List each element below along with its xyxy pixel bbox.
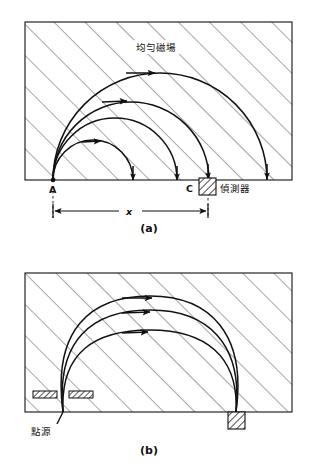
dimension-label-x: x: [125, 206, 133, 217]
detector-label-c: C: [186, 183, 193, 194]
trajectory-middle-arc-direction-arrow: [122, 312, 150, 313]
trajectory-middle-arc-direction-arrow: [102, 101, 127, 102]
dimension-x: x: [53, 186, 208, 218]
source-label-b: 點源: [31, 426, 51, 437]
detector-block-b: [228, 412, 245, 429]
physics-figure: A C 偵測器 均勻磁場 x (a): [0, 0, 315, 467]
detector-block-a: [199, 178, 216, 195]
trajectory-inner-arc-direction-arrow: [122, 332, 148, 333]
panel-a: A C 偵測器 均勻磁場 x (a): [25, 22, 292, 235]
panel-caption-b: (b): [140, 444, 158, 457]
slit-plate-left: [33, 391, 57, 398]
field-label: 均勻磁場: [136, 42, 176, 53]
detector-name-label: 偵測器: [220, 183, 250, 194]
source-stem-b: [57, 412, 63, 424]
panel-caption-a: (a): [140, 222, 157, 235]
trajectory-inner-arc-direction-arrow: [82, 141, 101, 142]
figure-canvas: A C 偵測器 均勻磁場 x (a): [0, 0, 315, 467]
slit-plate-right: [69, 391, 93, 398]
panel-b-field-region: [25, 273, 292, 412]
panel-b: 點源 (b): [25, 273, 292, 457]
source-point-a: [51, 178, 56, 183]
